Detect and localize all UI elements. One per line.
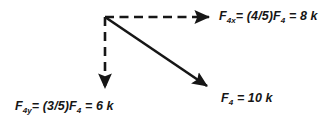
force-vector-diagram: F4x= (4/5)F4 = 8 k F4y= (3/5)F4 = 6 k F4… (0, 0, 332, 123)
fy-value: = 6 k (85, 99, 114, 113)
x-component-label: F4x= (4/5)F4 = 8 k (219, 10, 318, 23)
f-subscript: 4 (229, 98, 234, 107)
fx-value: = 8 k (289, 9, 318, 23)
f-symbol: F (221, 91, 229, 105)
fx-subscript: 4x (227, 16, 236, 25)
fx-subscript-2: 4 (281, 16, 286, 25)
resultant-force-label: F4 = 10 k (221, 92, 273, 105)
resultant-force-arrow (105, 17, 207, 86)
fy-expression: = (3/5)F (32, 99, 77, 113)
fx-expression: = (4/5)F (236, 9, 281, 23)
f-value: = 10 k (237, 91, 273, 105)
fy-symbol: F (15, 99, 23, 113)
fy-subscript-2: 4 (77, 106, 82, 115)
fx-symbol: F (219, 9, 227, 23)
fy-subscript: 4y (23, 106, 32, 115)
y-component-label: F4y= (3/5)F4 = 6 k (15, 100, 114, 113)
